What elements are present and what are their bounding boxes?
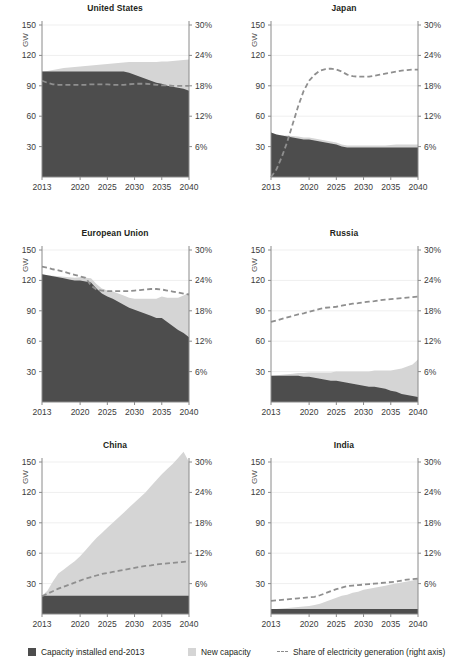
legend-label-new-capacity: New capacity: [201, 647, 251, 657]
legend-label-installed: Capacity installed end-2013: [41, 647, 144, 657]
chart-panel-india: IndiaGW3060901201506%12%18%24%30%2013202…: [241, 440, 447, 640]
chart-panel-european-union: European UnionGW3060901201506%12%18%24%3…: [12, 228, 218, 428]
chart-figure: United StatesGW3060901201506%12%18%24%30…: [0, 0, 459, 667]
area-installed-capacity: [42, 596, 189, 614]
chart-legend: Capacity installed end-2013 New capacity…: [0, 645, 459, 661]
area-installed-capacity: [271, 609, 418, 614]
plot-area: [12, 228, 218, 428]
plot-area: [241, 3, 447, 203]
share-line-icon: [277, 651, 288, 652]
installed-swatch: [28, 648, 36, 656]
area-installed-capacity: [271, 132, 418, 177]
chart-panel-russia: RussiaGW3060901201506%12%18%24%30%201320…: [241, 228, 447, 428]
area-installed-capacity: [42, 72, 189, 177]
legend-label-share: Share of electricity generation (right a…: [293, 647, 445, 657]
chart-panel-china: ChinaGW3060901201506%12%18%24%30%2013202…: [12, 440, 218, 640]
plot-area: [241, 440, 447, 640]
share-of-generation-line: [271, 297, 418, 322]
legend-item-new-capacity: New capacity: [188, 647, 251, 657]
legend-item-installed: Capacity installed end-2013: [28, 647, 144, 657]
chart-panel-japan: JapanGW3060901201506%12%18%24%30%2013202…: [241, 3, 447, 203]
legend-item-share-line: Share of electricity generation (right a…: [277, 647, 445, 657]
chart-panel-united-states: United StatesGW3060901201506%12%18%24%30…: [12, 3, 218, 203]
area-new-capacity: [42, 452, 189, 614]
plot-area: [241, 228, 447, 428]
new-capacity-swatch: [188, 648, 196, 656]
plot-area: [12, 440, 218, 640]
plot-area: [12, 3, 218, 203]
